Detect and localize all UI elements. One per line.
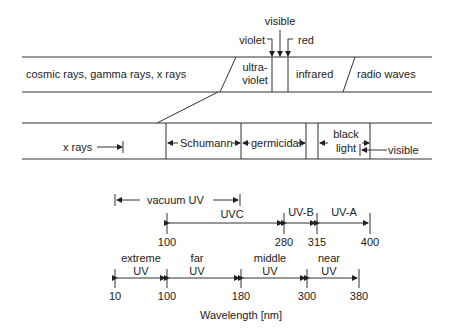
label-schumann: Schumann xyxy=(180,137,233,149)
axis-label-wavelength: Wavelength [nm] xyxy=(200,309,282,321)
electromagnetic-spectrum-band: cosmic rays, gamma rays, x rays ultra- v… xyxy=(22,57,432,92)
visible-callouts: visible violet red xyxy=(239,15,314,56)
cie-uv-scale: vacuum UV UVC UV-B UV-A 100 280 315 400 xyxy=(115,194,379,248)
label-radio-waves: radio waves xyxy=(357,68,416,80)
tick-label-315: 315 xyxy=(308,236,326,248)
tick-label-280: 280 xyxy=(275,236,293,248)
red-arrow-icon xyxy=(288,39,293,56)
label-extreme-uv: UV xyxy=(133,265,149,277)
tick-label-300: 300 xyxy=(298,290,316,302)
zoom-connector-line xyxy=(157,92,218,123)
uv-detail-band: x rays Schumann germicidal black light v… xyxy=(22,123,432,159)
label-uvc: UVC xyxy=(220,208,243,220)
label-extreme: extreme xyxy=(121,252,161,264)
label-uva: UV-A xyxy=(331,206,357,218)
tick-label-380: 380 xyxy=(350,290,368,302)
label-middle-uv: UV xyxy=(262,265,278,277)
tick-label-100-cie: 100 xyxy=(158,236,176,248)
divider-gamma-uv xyxy=(220,57,236,92)
tick-label-400: 400 xyxy=(361,236,379,248)
label-cosmic-gamma-xrays: cosmic rays, gamma rays, x rays xyxy=(26,68,187,80)
label-middle: middle xyxy=(254,252,286,264)
label-visible-uv: visible xyxy=(388,144,419,156)
callout-red: red xyxy=(298,34,314,46)
label-black: black xyxy=(333,128,359,140)
divider-infrared-radio xyxy=(343,57,355,92)
label-vacuum-uv: vacuum UV xyxy=(147,194,205,206)
label-xrays: x rays xyxy=(63,141,93,153)
label-ultraviolet-line2: violet xyxy=(242,74,268,86)
tick-label-180: 180 xyxy=(232,290,250,302)
label-far: far xyxy=(191,252,204,264)
tick-label-10: 10 xyxy=(109,290,121,302)
iso-uv-scale: extreme UV far UV middle UV near UV 10 1… xyxy=(109,252,368,302)
callout-visible: visible xyxy=(265,15,296,27)
violet-arrow-icon xyxy=(267,39,272,56)
label-ultraviolet-line1: ultra- xyxy=(242,61,267,73)
label-near-uv: UV xyxy=(321,265,337,277)
tick-label-100-iso: 100 xyxy=(158,290,176,302)
label-uvb: UV-B xyxy=(288,206,314,218)
label-infrared: infrared xyxy=(296,68,333,80)
uv-spectrum-diagram: cosmic rays, gamma rays, x rays ultra- v… xyxy=(0,0,453,334)
label-light: light xyxy=(336,142,356,154)
label-germicidal: germicidal xyxy=(251,137,301,149)
callout-violet: violet xyxy=(239,34,265,46)
label-far-uv: UV xyxy=(189,265,205,277)
label-near: near xyxy=(318,252,340,264)
